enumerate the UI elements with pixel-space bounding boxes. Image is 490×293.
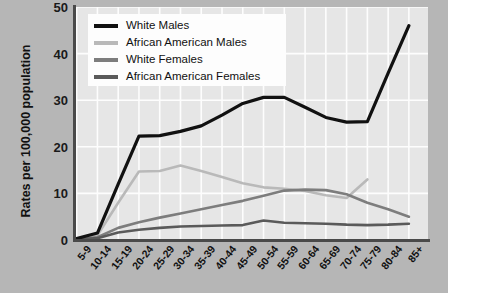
legend-item: White Females <box>94 52 280 68</box>
legend-item-label: White Males <box>126 20 189 32</box>
x-axis-tick-label: 35-39 <box>192 243 218 272</box>
x-axis-tick-label: 25-29 <box>150 243 176 272</box>
chart-panel: 50403020100 Rates per 100,000 population… <box>0 0 448 293</box>
legend-item-label: White Females <box>126 54 203 66</box>
x-axis-tick-label: 15-19 <box>109 243 135 272</box>
legend-item: African American Males <box>94 35 280 51</box>
x-axis-tick-label: 65-69 <box>316 243 342 272</box>
x-axis-tick-label: 55-59 <box>275 243 301 272</box>
y-axis-tick-label: 20 <box>36 140 68 153</box>
y-axis-tick-label: 30 <box>36 94 68 107</box>
x-axis-line <box>73 239 430 242</box>
x-axis-tick-label: 80-84 <box>379 243 405 272</box>
chart-legend: White MalesAfrican American MalesWhite F… <box>88 14 286 86</box>
legend-swatch-icon <box>94 75 118 79</box>
x-axis-tick-label: 85+ <box>405 243 425 264</box>
x-axis-tick-label: 60-64 <box>296 243 322 272</box>
x-axis-tick-label: 40-44 <box>212 243 238 272</box>
y-axis-title: Rates per 100,000 population <box>19 31 33 231</box>
chart-screenshot: 50403020100 Rates per 100,000 population… <box>0 0 490 293</box>
legend-swatch-icon <box>94 41 118 45</box>
legend-item-label: African American Females <box>126 71 260 83</box>
legend-item: African American Females <box>94 69 280 85</box>
x-axis-tick-label: 30-34 <box>171 243 197 272</box>
x-axis-tick-label: 10-14 <box>88 243 114 272</box>
y-axis-tick-labels: 50403020100 <box>32 0 68 293</box>
y-axis-tick-label: 40 <box>36 47 68 60</box>
y-axis-line <box>73 5 76 242</box>
legend-swatch-icon <box>94 24 118 28</box>
legend-swatch-icon <box>94 58 118 62</box>
x-axis-tick-label: 70-74 <box>337 243 363 272</box>
x-axis-tick-label: 45-49 <box>233 243 259 272</box>
x-axis-tick-labels: 5-910-1415-1920-2425-2930-3435-3940-4445… <box>75 243 428 293</box>
legend-item: White Males <box>94 18 280 34</box>
x-axis-tick-label: 50-54 <box>254 243 280 272</box>
x-axis-tick-label: 75-79 <box>358 243 384 272</box>
y-axis-tick-label: 50 <box>36 1 68 14</box>
x-axis-tick-label: 20-24 <box>129 243 155 272</box>
y-axis-tick-label: 10 <box>36 187 68 200</box>
y-axis-tick-label: 0 <box>36 234 68 247</box>
legend-item-label: African American Males <box>126 37 247 49</box>
